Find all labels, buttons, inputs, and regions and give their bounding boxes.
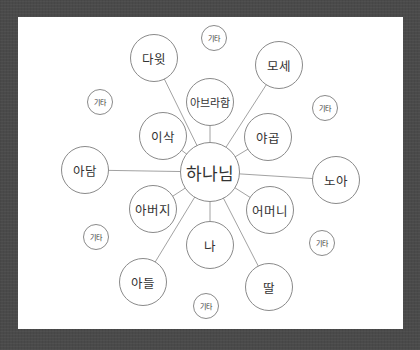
node-label: 이삭 bbox=[151, 127, 175, 146]
node-adam[interactable]: 아담 bbox=[61, 146, 109, 194]
node-noah[interactable]: 노아 bbox=[312, 156, 360, 204]
node-etc-lower-right[interactable]: 기타 bbox=[309, 230, 335, 256]
node-label: 기타 bbox=[208, 33, 220, 43]
node-label: 나 bbox=[204, 236, 216, 255]
node-label: 아브라함 bbox=[190, 94, 230, 110]
node-label: 아버지 bbox=[135, 200, 171, 219]
node-me[interactable]: 나 bbox=[186, 221, 234, 269]
node-label: 딸 bbox=[263, 278, 275, 297]
node-father[interactable]: 아버지 bbox=[129, 185, 177, 233]
node-label: 아들 bbox=[131, 273, 155, 292]
node-etc-top[interactable]: 기타 bbox=[201, 25, 227, 51]
node-moses[interactable]: 모세 bbox=[255, 41, 303, 89]
node-label: 기타 bbox=[90, 232, 102, 242]
node-label: 모세 bbox=[267, 56, 291, 75]
center-node-label: 하나님 bbox=[186, 160, 234, 185]
node-jacob[interactable]: 야곱 bbox=[244, 113, 292, 161]
node-etc-bottom[interactable]: 기타 bbox=[193, 293, 219, 319]
node-label: 기타 bbox=[319, 103, 331, 113]
node-label: 야곱 bbox=[256, 128, 280, 147]
node-etc-right[interactable]: 기타 bbox=[312, 95, 338, 121]
node-label: 다윗 bbox=[142, 49, 166, 68]
node-label: 노아 bbox=[324, 171, 348, 190]
node-etc-left[interactable]: 기타 bbox=[87, 89, 113, 115]
node-david[interactable]: 다윗 bbox=[130, 34, 178, 82]
node-label: 기타 bbox=[200, 301, 212, 311]
node-mother[interactable]: 어머니 bbox=[246, 186, 294, 234]
node-son[interactable]: 아들 bbox=[119, 258, 167, 306]
node-label: 기타 bbox=[94, 97, 106, 107]
center-node-god[interactable]: 하나님 bbox=[180, 142, 240, 202]
node-isaac[interactable]: 이삭 bbox=[139, 112, 187, 160]
node-etc-lower-left[interactable]: 기타 bbox=[83, 224, 109, 250]
node-abraham[interactable]: 아브라함 bbox=[186, 78, 234, 126]
node-label: 기타 bbox=[316, 238, 328, 248]
node-daughter[interactable]: 딸 bbox=[245, 263, 293, 311]
node-label: 아담 bbox=[73, 161, 97, 180]
node-label: 어머니 bbox=[252, 201, 288, 220]
